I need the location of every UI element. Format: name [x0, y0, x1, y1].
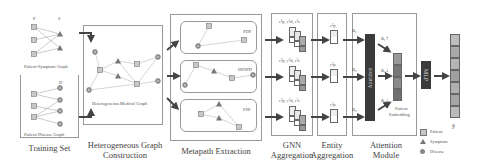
symptom-node-icon [57, 31, 63, 37]
ps-edges [34, 27, 60, 54]
patient-node-icon [32, 25, 37, 30]
pd-edges [34, 88, 60, 124]
disease-node-icon [58, 86, 63, 91]
diagram-graphics [0, 0, 479, 166]
